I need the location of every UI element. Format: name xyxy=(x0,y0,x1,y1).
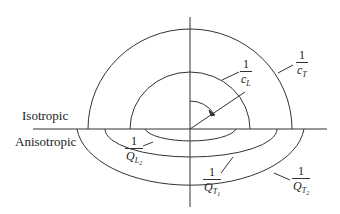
fraction-1-over-cT: 1 cT xyxy=(296,49,308,81)
leader-cL xyxy=(222,72,239,80)
fraction-1-over-QL2: 1 QL2 xyxy=(125,135,143,169)
leader-QT1 xyxy=(221,157,233,173)
radius-vector xyxy=(190,92,245,129)
fraction-1-over-QT1: 1 QT1 xyxy=(203,166,221,200)
fraction-1-over-cL: 1 cL xyxy=(240,58,252,90)
slowness-diagram xyxy=(0,0,340,214)
leader-QT2 xyxy=(274,173,290,180)
fraction-1-over-QT2: 1 QT2 xyxy=(292,165,310,199)
isotropic-label: Isotropic xyxy=(22,108,68,124)
leader-QL2 xyxy=(143,142,153,146)
anisotropic-label: Anisotropic xyxy=(15,134,76,150)
leader-cT xyxy=(278,65,293,73)
